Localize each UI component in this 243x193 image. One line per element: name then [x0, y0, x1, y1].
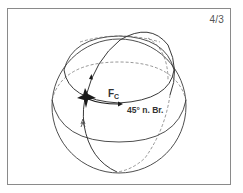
force-label: FC — [108, 88, 119, 100]
double-chevron-icon — [81, 119, 85, 127]
arrowhead-east-icon — [118, 102, 123, 107]
sphere-diagram: FC 45° n. Br. — [0, 0, 243, 193]
meridian-back-upper — [148, 38, 168, 80]
equator-front — [52, 100, 186, 142]
latitude-label: 45° n. Br. — [127, 105, 163, 115]
position-marker-icon — [77, 88, 96, 108]
